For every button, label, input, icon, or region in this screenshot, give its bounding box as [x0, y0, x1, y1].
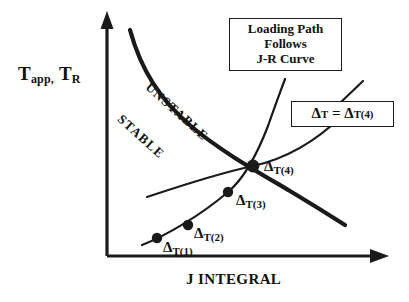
delta-t-lhs-subscript: T — [321, 108, 328, 120]
data-point-dt4-intersection — [247, 160, 260, 173]
point-label-dt4-subscript: T(4) — [273, 164, 293, 176]
point-label-dt3-subscript: T(3) — [245, 198, 265, 210]
callout-loading-path: Loading Path Follows J-R Curve — [229, 18, 342, 71]
delta-t-operator: = — [332, 105, 341, 121]
y-axis-title-sub1: app, — [31, 72, 54, 86]
diagram-canvas — [0, 0, 409, 302]
delta-t-rhs-symbol: Δ — [344, 105, 353, 121]
callout-delta-t-equation: ΔT = ΔT(4) — [291, 101, 394, 127]
data-point-dt2 — [183, 220, 193, 230]
point-label-dt3: ΔT(3) — [236, 193, 266, 208]
y-axis-title-t1: T — [18, 63, 31, 84]
point-label-dt2: ΔT(2) — [194, 226, 224, 241]
delta-t-callout-leader-line — [340, 81, 363, 103]
y-axis-title-sub2: R — [72, 72, 81, 86]
y-axis-arrowhead-icon — [101, 11, 114, 29]
point-label-dt2-subscript: T(2) — [203, 231, 223, 243]
data-point-dt1 — [152, 233, 162, 243]
y-axis-title: Tapp, TR — [18, 64, 81, 83]
x-axis-title: J INTEGRAL — [186, 272, 281, 287]
point-label-dt4-symbol: Δ — [264, 158, 273, 174]
callout-loading-path-line2: Follows — [232, 37, 339, 52]
callout-loading-path-line1: Loading Path — [232, 22, 339, 37]
x-axis-arrowhead-icon — [370, 249, 389, 263]
point-label-dt1-subscript: T(1) — [172, 245, 192, 257]
fracture-stability-diagram: Tapp, TR J INTEGRAL UNSTABLE STABLE Load… — [0, 0, 409, 302]
point-label-dt1-symbol: Δ — [163, 239, 172, 255]
point-label-dt1: ΔT(1) — [163, 240, 193, 255]
point-label-dt2-symbol: Δ — [194, 225, 203, 241]
callout-loading-path-line3: J-R Curve — [232, 52, 339, 67]
data-point-dt3 — [223, 187, 233, 197]
j-r-curve — [147, 116, 342, 197]
delta-t-lhs-symbol: Δ — [312, 105, 321, 121]
point-label-dt4: ΔT(4) — [264, 159, 294, 174]
point-label-dt3-symbol: Δ — [236, 192, 245, 208]
y-axis-title-t2: T — [59, 63, 72, 84]
delta-t-rhs-subscript: T(4) — [354, 108, 374, 120]
